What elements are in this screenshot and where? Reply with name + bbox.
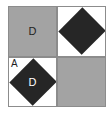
quadrant-cell-bottom-right[interactable] [57,57,106,108]
diamond-shape-top-right [58,8,105,55]
quadrant-diagram: D A D [8,6,106,107]
cell-corner-label-bottom-left: A [11,59,18,69]
quadrant-grid: D A D [8,6,106,107]
diamond-label-bottom-left: D [9,76,56,87]
cell-center-label-top-left: D [9,26,56,37]
quadrant-cell-bottom-left[interactable]: A D [8,57,57,108]
quadrant-cell-top-left[interactable]: D [8,6,57,57]
quadrant-cell-top-right[interactable] [57,6,106,57]
